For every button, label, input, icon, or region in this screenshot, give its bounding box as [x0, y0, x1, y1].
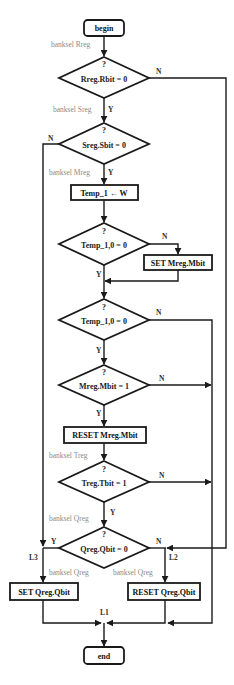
decision-text: Rreg.Rbit = 0: [81, 75, 127, 84]
no-label: N: [159, 374, 165, 383]
annotation-banksel-rreg: banksel Rreg: [51, 40, 91, 49]
connector-sreg-no: [43, 144, 59, 546]
end-label: end: [98, 652, 111, 661]
annotation-banksel-mreg: banksel Mreg: [49, 168, 90, 177]
connector: [43, 600, 101, 623]
process-reset-qbit-label: RESET Qreg.Qbit: [133, 588, 196, 597]
decision-q-mark: ?: [102, 303, 106, 312]
flowchart: begin banksel Rreg ? Rreg.Rbit = 0 N ban…: [0, 0, 234, 685]
decision-text: Temp_1,0 = 0: [81, 317, 127, 326]
yes-label: Y: [96, 270, 102, 279]
yes-label: Y: [108, 168, 114, 177]
no-label: N: [156, 67, 162, 76]
decision-q-mark: ?: [102, 126, 106, 135]
connector-temp1-no: [149, 244, 178, 254]
decision-text: Sreg.Sbit = 0: [82, 141, 126, 150]
no-label: N: [159, 471, 165, 480]
yes-label: Y: [51, 537, 57, 546]
annotation-banksel-sreg: banksel Sreg: [53, 105, 92, 114]
annotation-banksel-qreg-right: banksel Qreg: [113, 568, 153, 577]
decision-text: Treg.Tbit = 1: [82, 479, 127, 488]
no-label: N: [162, 232, 168, 241]
decision-text: Qreg.Qbit = 0: [80, 545, 127, 554]
process-reset-mbit-label: RESET Mreg.Mbit: [72, 431, 138, 440]
decision-q-mark: ?: [102, 530, 106, 539]
decision-q-mark: ?: [102, 368, 106, 377]
connector: [105, 270, 178, 281]
connector: [107, 600, 165, 623]
yes-label: Y: [108, 105, 114, 114]
decision-q-mark: ?: [102, 465, 106, 474]
process-set-mbit-label: SET Mreg.Mbit: [151, 259, 206, 268]
decision-text: Mreg.Mbit = 1: [79, 382, 129, 391]
annotation-banksel-qreg-left: banksel Qreg: [49, 568, 89, 577]
process-temp-assign-label: Temp_1 ← W: [80, 189, 127, 198]
no-label: N: [156, 308, 162, 317]
decision-q-mark: ?: [102, 60, 106, 69]
yes-label: Y: [110, 508, 116, 517]
begin-label: begin: [95, 24, 114, 33]
label-l1: L1: [100, 608, 109, 617]
label-l3: L3: [29, 553, 38, 562]
process-set-qbit-label: SET Qreg.Qbit: [18, 588, 70, 597]
annotation-banksel-treg: banksel Treg: [49, 451, 88, 460]
no-label: N: [48, 134, 54, 143]
annotation-banksel-qreg: banksel Qreg: [49, 514, 89, 523]
decision-text: Temp_1,0 = 0: [81, 241, 127, 250]
no-label: N: [156, 537, 162, 546]
decision-q-mark: ?: [102, 227, 106, 236]
label-l2: L2: [169, 553, 178, 562]
yes-label: Y: [96, 346, 102, 355]
yes-label: Y: [96, 409, 102, 418]
